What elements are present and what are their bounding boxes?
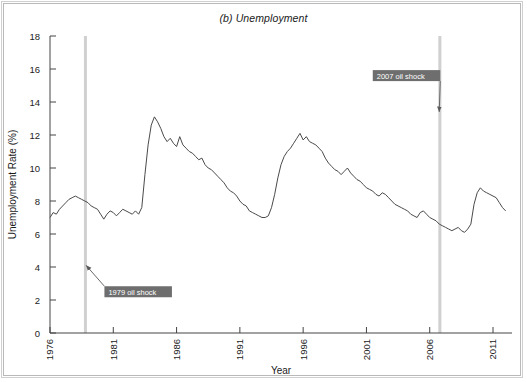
x-tick-label-2: 1986 [171,339,182,360]
y-axis-ticks: 024681012141618 [29,31,56,339]
series-path-unemployment [50,117,506,233]
annotation-label-1: 1979 oil shock [108,288,156,297]
x-tick-label-7: 2011 [487,339,498,359]
x-axis-title: Year [271,365,292,376]
y-tick-label-0: 0 [35,328,40,339]
y-tick-label-2: 4 [35,262,40,273]
y-tick-label-3: 6 [35,229,40,240]
y-tick-label-1: 2 [35,295,40,306]
y-tick-label-7: 14 [29,97,40,108]
x-tick-label-1: 1981 [108,339,119,360]
x-tick-label-6: 2006 [424,339,435,360]
x-tick-label-3: 1991 [234,339,245,360]
y-axis-title: Unemployment Rate (%) [7,130,18,239]
x-tick-label-5: 2001 [361,339,372,360]
unemployment-line-chart: 024681012141618 197619811986199119962001… [0,0,527,382]
x-axis-ticks: 19761981198619911996200120062011 [44,327,498,360]
x-tick-label-0: 1976 [44,339,55,360]
annotation-arrow-1 [86,265,104,286]
y-tick-label-5: 10 [29,163,40,174]
chart-annotations: 1979 oil shock2007 oil shock [86,70,440,297]
unemployment-series-line [50,117,506,233]
y-tick-label-4: 8 [35,196,40,207]
annotation-label-2: 2007 oil shock [377,72,425,81]
y-tick-label-8: 16 [29,64,40,75]
x-tick-label-4: 1996 [298,339,309,360]
figure-container: (b) Unemployment 024681012141618 1976198… [0,0,527,382]
y-tick-label-9: 18 [29,31,40,42]
y-tick-label-6: 12 [29,130,40,141]
